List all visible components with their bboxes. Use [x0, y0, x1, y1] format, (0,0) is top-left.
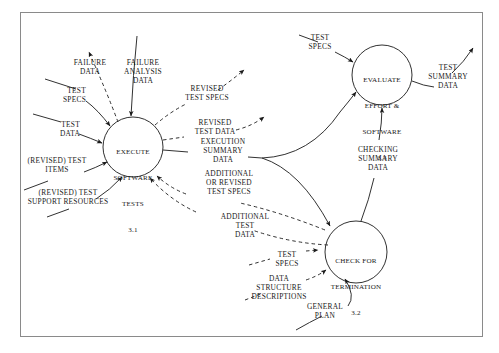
process-3-1-line1: EXECUTE	[103, 148, 163, 157]
flow-label-revised-test-support-resources: (REVISED) TEST SUPPORT RESOURCES	[22, 188, 114, 206]
flow-revised-test-specs	[155, 104, 186, 125]
process-3-2-line1: CHECK FOR	[320, 257, 392, 266]
flow-label-test-summary-data: TEST SUMMARY DATA	[422, 63, 474, 91]
flow-test-specs-left-arrow	[86, 101, 110, 126]
flow-label-test-specs-left: TEST SPECS	[36, 86, 86, 104]
flow-label-additional-or-revised-test-specs: ADDITIONAL OR REVISED TEST SPECS	[198, 169, 260, 197]
process-3-1-number: 3.1	[103, 226, 163, 235]
flow-label-failure-analysis-data: FAILURE ANALYSIS DATA	[117, 58, 169, 86]
flow-label-execution-summary-data: EXECUTION SUMMARY DATA	[192, 137, 254, 165]
process-3-2-line2: TERMINATION	[320, 283, 392, 292]
flow-execution-summary-data-to-33	[262, 92, 356, 158]
diagram-canvas: EXECUTE SOFTWARE TESTS 3.1 EVALUATE EFFO…	[0, 0, 499, 353]
flow-test-data-left-arrow	[79, 134, 102, 143]
flow-label-revised-test-data: REVISED TEST DATA	[186, 118, 244, 136]
flow-label-additional-test-data: ADDITIONAL TEST DATA	[216, 212, 274, 240]
flow-test-specs-termination-arrow	[306, 250, 318, 251]
flow-label-failure-data: FAILURE DATA	[66, 58, 114, 76]
flow-label-test-specs-termination: TEST SPECS	[268, 250, 306, 268]
flow-revised-test-support-resources	[47, 209, 69, 217]
flow-label-test-data-left: TEST DATA	[30, 120, 80, 138]
flow-execution-summary-data-stub	[163, 150, 188, 152]
flow-checking-summary-data-lower	[361, 178, 374, 221]
process-3-3-line1: EVALUATE	[350, 76, 414, 85]
flow-label-data-structure-descriptions: DATA STRUCTURE DESCRIPTIONS	[248, 274, 310, 302]
flow-label-revised-test-items: (REVISED) TEST ITEMS	[24, 156, 90, 174]
flow-label-revised-test-specs: REVISED TEST SPECS	[176, 84, 238, 102]
flow-label-general-plan: GENERAL PLAN	[300, 302, 350, 320]
process-3-3-line2: EFFORT &	[350, 102, 414, 111]
flow-test-specs-termination	[249, 259, 270, 265]
flow-revised-test-data	[163, 137, 184, 140]
flow-label-checking-summary-data: CHECKING SUMMARY DATA	[349, 145, 407, 173]
process-3-3-line3: SOFTWARE	[350, 128, 414, 137]
process-3-1-line2: SOFTWARE	[103, 174, 163, 183]
flow-label-test-specs-evaluate: TEST SPECS	[300, 33, 340, 51]
